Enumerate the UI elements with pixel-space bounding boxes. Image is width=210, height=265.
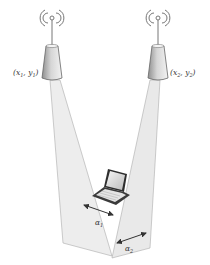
diagram-canvas: α1 α2 (x1, y1) (x2, y2) (0, 0, 210, 265)
access-point-1-label: (x1, y1) (13, 68, 39, 78)
access-point-2 (146, 10, 170, 80)
beam-1 (50, 80, 112, 256)
access-point-2-label: (x2, y2) (170, 68, 196, 78)
beam-2 (112, 80, 160, 258)
tower-icon (148, 46, 168, 80)
beam-width-label-1: α1 (95, 218, 103, 228)
access-point-1 (40, 10, 64, 80)
tower-icon (42, 46, 62, 80)
